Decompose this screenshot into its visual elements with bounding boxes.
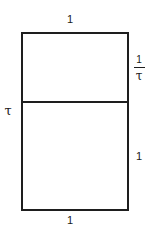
top-width-label: 1 bbox=[64, 14, 76, 25]
bottom-width-label: 1 bbox=[64, 215, 76, 226]
outer-rectangle bbox=[21, 32, 129, 211]
horizontal-divider-line bbox=[21, 101, 129, 103]
right-upper-height-fraction: 1 τ bbox=[132, 55, 146, 82]
fraction-denominator: τ bbox=[136, 70, 143, 82]
fraction-numerator: 1 bbox=[136, 55, 142, 65]
right-lower-height-label: 1 bbox=[133, 151, 145, 162]
fraction-bar bbox=[134, 67, 145, 68]
left-height-tau-label: τ bbox=[2, 104, 14, 117]
